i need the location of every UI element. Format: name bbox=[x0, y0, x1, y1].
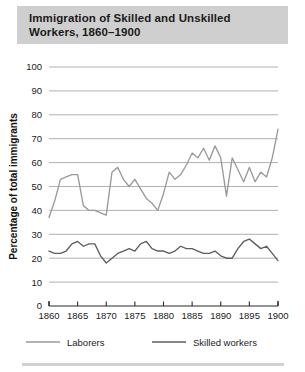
data-series-group bbox=[49, 129, 278, 263]
y-axis-tick-label: 100 bbox=[26, 61, 42, 72]
series-line-skilled-workers bbox=[49, 239, 278, 263]
y-axis-tick-label: 10 bbox=[31, 277, 42, 288]
x-axis-tick-label: 1890 bbox=[210, 310, 231, 321]
x-axis-tick-label: 1870 bbox=[96, 310, 117, 321]
x-axis-tick-label: 1900 bbox=[267, 310, 288, 321]
y-axis-label: Percentage of total immigrants bbox=[8, 113, 19, 260]
chart-legend: LaborersSkilled workers bbox=[26, 337, 257, 348]
y-axis-tick-label: 30 bbox=[31, 229, 42, 240]
y-axis-tick-label: 60 bbox=[31, 157, 42, 168]
x-axis-tick-label: 1895 bbox=[239, 310, 260, 321]
x-axis-ticks bbox=[49, 302, 278, 307]
y-axis-title-text: Percentage of total immigrants bbox=[8, 113, 19, 260]
chart-plot-area: 0102030405060708090100 18601865187018751… bbox=[0, 0, 305, 372]
x-axis-tick-label: 1875 bbox=[124, 310, 145, 321]
y-axis-tick-label: 90 bbox=[31, 85, 42, 96]
legend-label-skilled-workers: Skilled workers bbox=[193, 337, 257, 348]
x-axis-tick-label: 1885 bbox=[182, 310, 203, 321]
figure-container: Immigration of Skilled and Unskilled Wor… bbox=[0, 0, 305, 372]
gridlines-group bbox=[49, 67, 278, 282]
y-axis-tick-labels: 0102030405060708090100 bbox=[26, 61, 42, 311]
y-axis-tick-label: 20 bbox=[31, 253, 42, 264]
x-axis-tick-label: 1865 bbox=[67, 310, 88, 321]
series-line-laborers bbox=[49, 129, 278, 217]
line-chart: 0102030405060708090100 18601865187018751… bbox=[0, 0, 305, 372]
y-axis-tick-label: 50 bbox=[31, 181, 42, 192]
bottom-divider bbox=[22, 363, 284, 366]
y-axis-tick-label: 40 bbox=[31, 205, 42, 216]
y-axis-tick-label: 80 bbox=[31, 109, 42, 120]
x-axis-tick-labels: 186018651870187518801885189018951900 bbox=[38, 310, 288, 321]
legend-label-laborers: Laborers bbox=[67, 337, 105, 348]
x-axis-tick-label: 1860 bbox=[38, 310, 59, 321]
x-axis-tick-label: 1880 bbox=[153, 310, 174, 321]
y-axis-tick-label: 70 bbox=[31, 133, 42, 144]
